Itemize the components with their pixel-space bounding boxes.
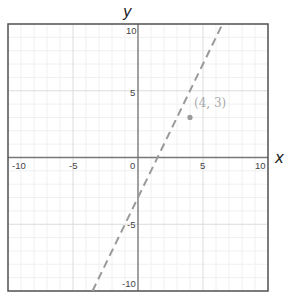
y-tick-label: 10 (126, 25, 137, 36)
x-tick-label: 0 (130, 160, 135, 171)
coordinate-plane: -10 -5 0 5 10 10 5 -5 -10 (4, 3) y x (0, 0, 288, 298)
x-tick-label: -5 (69, 160, 77, 171)
point-label: (4, 3) (194, 96, 226, 110)
x-axis-label: x (274, 149, 284, 167)
y-tick-label: 5 (130, 87, 135, 98)
x-tick-label: 10 (255, 160, 266, 171)
x-tick-label: 5 (200, 160, 205, 171)
y-tick-label: -5 (127, 219, 135, 230)
x-tick-label: -10 (12, 160, 26, 171)
y-axis-label: y (122, 3, 133, 21)
point-marker (187, 115, 192, 120)
y-tick-label: -10 (122, 278, 136, 289)
